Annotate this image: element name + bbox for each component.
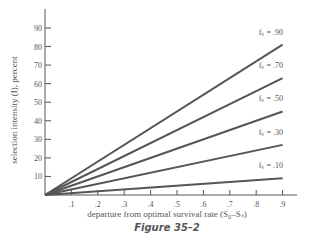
x-tick-label: .3: [121, 200, 127, 209]
figure-caption: Figure 35–2: [134, 222, 200, 233]
x-tick-label: .1: [68, 200, 74, 209]
y-tick-label: 50: [34, 98, 42, 107]
series-label: fₛ = .90: [259, 28, 283, 37]
x-tick-label: .8: [253, 200, 259, 209]
x-tick-label: .2: [95, 200, 101, 209]
x-axis-label: departure from optimal survival rate (S₀…: [87, 209, 246, 219]
x-tick-label: .4: [148, 200, 154, 209]
series-line: [45, 78, 283, 195]
x-tick-label: .6: [200, 200, 206, 209]
y-tick-label: 40: [34, 117, 42, 126]
series-label: fₛ = .30: [259, 128, 283, 137]
x-tick-label: .7: [227, 200, 233, 209]
y-tick-label: 30: [34, 135, 42, 144]
y-tick-label: 90: [34, 24, 42, 33]
y-tick-label: 80: [34, 43, 42, 52]
y-axis-label: selection intensity (I), percent: [9, 56, 19, 163]
chart-canvas: .1.2.3.4.5.6.7.8.9102030405060708090 fₛ …: [0, 0, 312, 240]
series-lines: [45, 45, 283, 195]
series-label: fₛ = .70: [259, 61, 283, 70]
y-tick-label: 10: [34, 172, 42, 181]
x-tick-label: .9: [280, 200, 286, 209]
series-label: fₛ = .50: [259, 94, 283, 103]
series-label: fₛ = .10: [259, 161, 283, 170]
y-tick-label: 20: [34, 154, 42, 163]
x-tick-label: .5: [174, 200, 180, 209]
y-tick-label: 60: [34, 80, 42, 89]
series-line: [45, 45, 283, 195]
y-tick-label: 70: [34, 61, 42, 70]
